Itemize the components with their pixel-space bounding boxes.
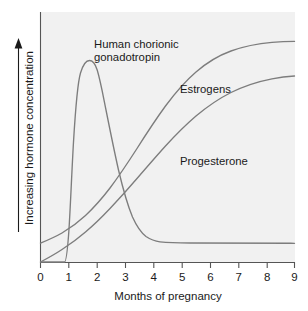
- x-tick-label: 0: [37, 271, 43, 283]
- curve-label-progesterone: Progesterone: [180, 155, 248, 167]
- x-tick-label: 8: [264, 271, 270, 283]
- y-axis-arrow-icon: [15, 38, 23, 232]
- curve-label-hcg-line2: gonadotropin: [94, 51, 160, 63]
- curve-label-estrogens: Estrogens: [180, 83, 231, 95]
- chart-svg: 0 1 2 3 4 5 6 7 8 9 Months of pregnancy …: [0, 0, 308, 311]
- curve-label-hcg-line1: Human chorionic: [94, 38, 179, 50]
- x-tick-label: 2: [94, 271, 100, 283]
- hormone-concentration-chart: 0 1 2 3 4 5 6 7 8 9 Months of pregnancy …: [0, 0, 308, 311]
- x-tick-label: 5: [179, 271, 185, 283]
- x-axis-tick-labels: 0 1 2 3 4 5 6 7 8 9: [37, 271, 297, 283]
- x-tick-label: 9: [291, 271, 297, 283]
- x-tick-label: 7: [236, 271, 242, 283]
- x-tick-label: 3: [122, 271, 128, 283]
- x-tick-label: 6: [207, 271, 213, 283]
- x-tick-label: 1: [66, 271, 72, 283]
- x-tick-label: 4: [151, 271, 158, 283]
- x-axis-title: Months of pregnancy: [114, 290, 222, 302]
- y-axis-title: Increasing hormone concentration: [23, 51, 35, 225]
